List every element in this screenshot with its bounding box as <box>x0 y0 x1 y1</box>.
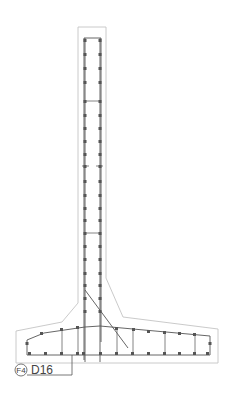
callout-mark: F4 <box>16 366 26 375</box>
callout-bar-size: D16 <box>31 363 53 377</box>
rebar-callout: F4 D16 <box>15 355 72 377</box>
retaining-wall-section-drawing: F4 D16 <box>0 0 229 405</box>
stem-distribution-bars <box>84 39 102 313</box>
footing-rebar <box>27 326 210 355</box>
concrete-outline <box>16 27 218 363</box>
footing-distribution-bars <box>26 326 212 355</box>
